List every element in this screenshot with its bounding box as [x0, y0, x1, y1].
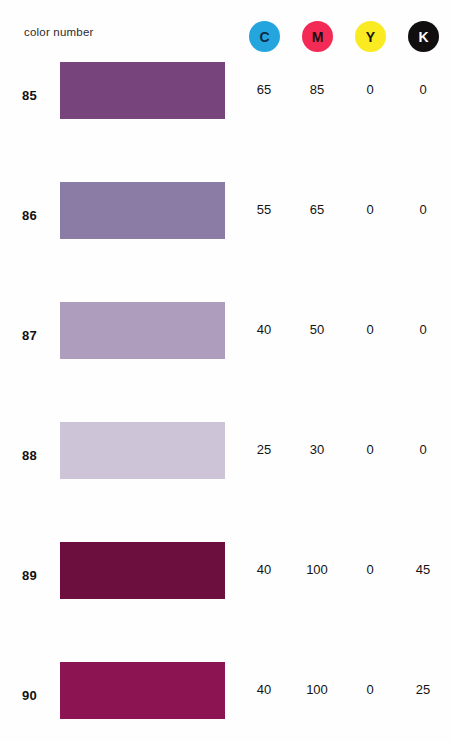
cyan-value: 65	[242, 82, 286, 97]
color-swatch	[60, 62, 225, 119]
magenta-value: 50	[295, 322, 339, 337]
color-swatch	[60, 182, 225, 239]
magenta-ink-icon: M	[302, 21, 333, 52]
color-swatch	[60, 302, 225, 359]
black-ink-label: K	[418, 30, 428, 44]
color-swatch	[60, 422, 225, 479]
cmyk-values: 556500	[238, 202, 452, 224]
magenta-value: 85	[295, 82, 339, 97]
black-value: 25	[401, 682, 445, 697]
yellow-ink-icon: Y	[355, 21, 386, 52]
table-row: 9040100025	[0, 658, 452, 742]
cmyk-values: 253000	[238, 442, 452, 464]
row-color-number: 86	[22, 208, 54, 223]
ink-legend: C M Y K	[238, 14, 452, 60]
yellow-value: 0	[348, 82, 392, 97]
yellow-ink-label: Y	[366, 30, 375, 44]
table-row: 8940100045	[0, 538, 452, 658]
cmyk-values: 658500	[238, 82, 452, 104]
yellow-value: 0	[348, 202, 392, 217]
row-color-number: 87	[22, 328, 54, 343]
cyan-value: 40	[242, 682, 286, 697]
yellow-value: 0	[348, 682, 392, 697]
chart-header: color number C M Y K	[0, 14, 452, 60]
cyan-ink-label: C	[259, 30, 269, 44]
yellow-value: 0	[348, 562, 392, 577]
cyan-value: 40	[242, 562, 286, 577]
row-color-number: 88	[22, 448, 54, 463]
color-swatch	[60, 662, 225, 719]
table-row: 85658500	[0, 58, 452, 178]
cyan-value: 40	[242, 322, 286, 337]
color-swatch	[60, 542, 225, 599]
table-row: 87405000	[0, 298, 452, 418]
magenta-value: 30	[295, 442, 339, 457]
cyan-value: 25	[242, 442, 286, 457]
cmyk-values: 405000	[238, 322, 452, 344]
yellow-value: 0	[348, 442, 392, 457]
magenta-ink-label: M	[312, 30, 324, 44]
row-color-number: 85	[22, 88, 54, 103]
cyan-ink-icon: C	[249, 21, 280, 52]
magenta-value: 65	[295, 202, 339, 217]
yellow-value: 0	[348, 322, 392, 337]
page-title: color number	[24, 26, 94, 38]
table-row: 88253000	[0, 418, 452, 538]
black-ink-icon: K	[408, 21, 439, 52]
row-color-number: 90	[22, 688, 54, 703]
black-value: 0	[401, 82, 445, 97]
cmyk-values: 40100045	[238, 562, 452, 584]
magenta-value: 100	[295, 682, 339, 697]
magenta-value: 100	[295, 562, 339, 577]
cyan-value: 55	[242, 202, 286, 217]
color-row-list: 8565850086556500874050008825300089401000…	[0, 58, 452, 742]
cmyk-values: 40100025	[238, 682, 452, 704]
black-value: 0	[401, 202, 445, 217]
row-color-number: 89	[22, 568, 54, 583]
black-value: 0	[401, 322, 445, 337]
black-value: 45	[401, 562, 445, 577]
black-value: 0	[401, 442, 445, 457]
color-chart-page: color number C M Y K 8565850086556500874…	[0, 0, 452, 742]
table-row: 86556500	[0, 178, 452, 298]
